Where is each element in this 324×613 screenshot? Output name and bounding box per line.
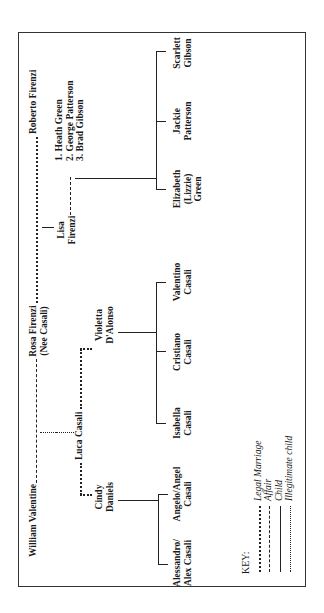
child-tick-valentino — [156, 282, 166, 283]
cindy-last-name: Daniels — [105, 477, 116, 517]
child-name-line: (Lizzie) — [183, 166, 194, 212]
lisa-first-name: Lisa — [56, 214, 67, 246]
child-tick-jackie — [156, 121, 166, 122]
illegitimate-line-vertical — [40, 432, 56, 433]
rosa-maiden-name: (Nee Casali) — [39, 303, 50, 359]
child-name-line: Valentino — [172, 259, 183, 305]
child-name-line: Alessandro/ — [172, 539, 183, 587]
person-william-valentine: William Valentine — [28, 484, 39, 557]
child-drop-lisa — [75, 178, 156, 179]
child-tick-isabella — [156, 423, 166, 424]
violetta-last-name: D'Alonso — [105, 299, 116, 351]
child-name-line: Scarlett — [172, 32, 183, 74]
key-label-child: Child — [274, 480, 284, 501]
children-bar-violetta — [156, 282, 157, 424]
child-drop-violetta — [118, 332, 156, 333]
child-tick-cristiano — [156, 351, 166, 352]
person-jackie-patterson: Jackie Patterson — [172, 97, 193, 145]
child-tick-elizabeth — [156, 189, 166, 190]
children-bar-cindy — [158, 495, 159, 565]
child-name-line: Casali — [183, 465, 194, 523]
child-tick-angelo — [158, 494, 168, 495]
child-name-line: Cristiano — [172, 330, 183, 374]
partner-heath-green: 1. Heath Green — [54, 81, 65, 161]
child-name-line: Isabella — [172, 402, 183, 444]
affair-line-lisa-partners — [70, 177, 71, 215]
child-name-line: Casali — [183, 330, 194, 374]
partner-brad-gibson: 3. Brad Gibson — [75, 81, 86, 161]
person-cindy-daniels: Cindy Daniels — [94, 477, 115, 517]
key-label-affair: Affair — [263, 479, 273, 501]
child-drop-cindy — [118, 500, 158, 501]
marriage-line-luca-violetta — [80, 349, 82, 409]
key-label-illegitimate-child: Illegitimate child — [284, 436, 294, 501]
child-name-line: Elizabeth — [172, 166, 183, 212]
person-angelo-casali: Angelo/Angel Casali — [172, 465, 193, 523]
key-swatch-affair — [269, 506, 270, 572]
child-tick-alessandro — [158, 564, 168, 565]
child-name-line: Jackie — [172, 97, 183, 145]
illegitimate-line-to-luca — [56, 432, 74, 433]
marriage-bracket-violetta — [80, 348, 92, 350]
person-cristiano-casali: Cristiano Casali — [172, 330, 193, 374]
key-swatch-legal-marriage — [259, 506, 261, 572]
marriage-line-rosa-roberto — [36, 137, 38, 303]
child-name-line: Casali — [183, 402, 194, 444]
child-name-line: Casali — [183, 259, 194, 305]
person-valentino-casali: Valentino Casali — [172, 259, 193, 305]
child-tick-scarlett — [156, 51, 166, 52]
marriage-bracket-cindy — [80, 494, 92, 496]
person-rosa-firenzi: Rosa Firenzi (Nee Casali) — [28, 303, 49, 359]
child-line-to-lisa — [42, 227, 54, 228]
person-roberto-firenzi: Roberto Firenzi — [28, 70, 39, 134]
family-tree-diagram: William Valentine Rosa Firenzi (Nee Casa… — [18, 32, 306, 587]
violetta-first-name: Violetta — [94, 299, 105, 351]
person-elizabeth-green: Elizabeth (Lizzie) Green — [172, 166, 204, 212]
child-name-line: Patterson — [183, 97, 194, 145]
marriage-line-luca-cindy — [80, 463, 82, 495]
key-swatch-illegitimate-child — [290, 506, 291, 572]
person-lisa-firenzi: Lisa Firenzi — [56, 214, 77, 246]
person-violetta-dalonso: Violetta D'Alonso — [94, 299, 115, 351]
person-luca-casali: Luca Casali — [74, 412, 85, 460]
lisa-partners-list: 1. Heath Green 2. George Patterson 3. Br… — [54, 81, 86, 161]
person-scarlett-gibson: Scarlett Gibson — [172, 32, 193, 74]
key-label-legal-marriage: Legal Marriage — [253, 441, 263, 501]
child-name-line: Gibson — [183, 32, 194, 74]
child-name-line: Green — [193, 166, 204, 212]
person-alessandro-casali: Alessandro/ Alex Casali — [172, 539, 193, 587]
person-isabella-casali: Isabella Casali — [172, 402, 193, 444]
cindy-first-name: Cindy — [94, 477, 105, 517]
lisa-last-name: Firenzi — [67, 214, 78, 246]
child-name-line: Angelo/Angel — [172, 465, 183, 523]
affair-line-william-rosa — [36, 359, 37, 483]
child-name-line: Alex Casali — [183, 539, 194, 587]
partner-george-patterson: 2. George Patterson — [65, 81, 76, 161]
key-swatch-child — [280, 506, 281, 572]
key-title: KEY: — [240, 552, 251, 574]
rosa-name: Rosa Firenzi — [28, 303, 39, 359]
